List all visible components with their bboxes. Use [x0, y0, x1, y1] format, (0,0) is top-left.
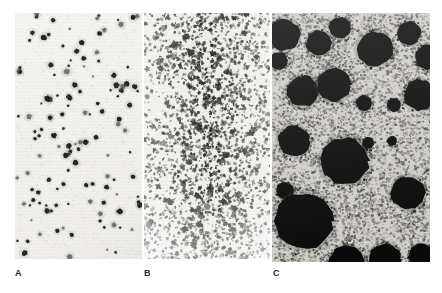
- panel-b-canvas: [144, 13, 270, 259]
- panel-b-label: B: [144, 268, 151, 278]
- panel-c-canvas: [272, 13, 430, 262]
- panel-a-image: [15, 13, 142, 259]
- panel-c-image: [272, 13, 430, 262]
- panel-a-canvas: [15, 13, 142, 259]
- panel-c-label: C: [273, 268, 280, 278]
- panel-b-image: [144, 13, 270, 259]
- figure-root: A B C: [0, 0, 442, 293]
- panel-a-label: A: [15, 268, 22, 278]
